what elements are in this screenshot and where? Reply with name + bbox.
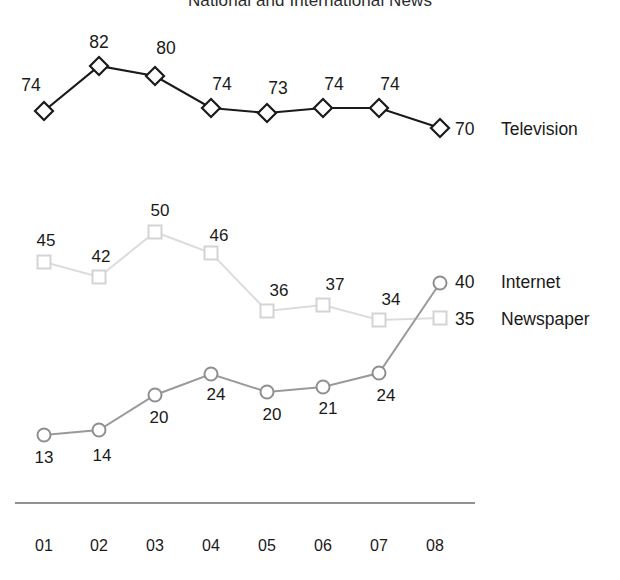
point-label-television-04: 74 [212, 74, 232, 94]
marker-television-05 [258, 104, 276, 122]
marker-newspaper-06 [317, 299, 330, 312]
series-point-labels-television: 74 82 80 74 73 74 74 [21, 32, 400, 98]
chart-container: National and International News 74 82 80… [0, 0, 620, 580]
series-television: 74 82 80 74 73 74 74 70 Television [21, 32, 578, 139]
point-label-internet-05: 20 [263, 405, 282, 424]
marker-newspaper-04 [205, 247, 218, 260]
x-tick-label-05: 05 [258, 537, 276, 554]
point-label-television-01: 74 [21, 75, 41, 95]
marker-internet-04 [205, 368, 218, 381]
marker-television-06 [314, 99, 332, 117]
point-label-newspaper-03: 50 [151, 201, 170, 220]
series-end-value-internet: 40 [455, 272, 475, 292]
point-label-television-03: 80 [156, 38, 176, 58]
marker-internet-08 [434, 277, 447, 290]
marker-television-08 [431, 119, 449, 137]
marker-television-07 [370, 99, 388, 117]
x-tick-label-01: 01 [35, 537, 53, 554]
point-label-internet-07: 24 [377, 386, 396, 405]
x-tick-label-02: 02 [90, 537, 108, 554]
point-label-internet-04: 24 [207, 385, 226, 404]
marker-internet-03 [149, 389, 162, 402]
series-internet: 13 14 20 24 20 21 24 40 Internet [35, 272, 561, 467]
point-label-internet-02: 14 [93, 446, 112, 465]
legend-label-television: Television [501, 119, 578, 139]
point-label-newspaper-04: 46 [210, 226, 229, 245]
marker-newspaper-05 [261, 305, 274, 318]
point-label-internet-03: 20 [150, 408, 169, 427]
series-end-value-newspaper: 35 [455, 309, 474, 329]
x-tick-label-07: 07 [370, 537, 388, 554]
x-axis-tick-labels: 01 02 03 04 05 06 07 08 [35, 537, 444, 554]
x-tick-label-03: 03 [146, 537, 164, 554]
marker-internet-05 [261, 386, 274, 399]
point-label-television-06: 74 [324, 74, 344, 94]
point-label-internet-06: 21 [319, 399, 338, 418]
point-label-newspaper-06: 37 [326, 275, 345, 294]
marker-internet-02 [93, 424, 106, 437]
chart-plot-area: 74 82 80 74 73 74 74 70 Television [0, 0, 620, 580]
point-label-television-05: 73 [268, 78, 287, 98]
point-label-newspaper-02: 42 [92, 247, 111, 266]
series-markers-television [35, 57, 449, 137]
marker-newspaper-08 [434, 312, 447, 325]
x-tick-label-08: 08 [426, 537, 444, 554]
point-label-newspaper-05: 36 [270, 281, 289, 300]
series-newspaper: 45 42 50 46 36 37 34 35 Newspaper [37, 201, 590, 329]
marker-newspaper-02 [93, 271, 106, 284]
marker-television-04 [202, 99, 220, 117]
point-label-television-07: 74 [380, 74, 400, 94]
point-label-television-02: 82 [89, 32, 108, 52]
series-point-labels-internet: 13 14 20 24 20 21 24 [35, 385, 396, 467]
legend-label-internet: Internet [501, 272, 560, 292]
marker-internet-07 [373, 367, 386, 380]
marker-television-03 [146, 67, 164, 85]
marker-newspaper-03 [149, 226, 162, 239]
marker-newspaper-01 [38, 256, 51, 269]
series-end-value-television: 70 [455, 119, 475, 139]
point-label-newspaper-01: 45 [37, 231, 56, 250]
point-label-newspaper-07: 34 [382, 290, 401, 309]
marker-internet-06 [317, 381, 330, 394]
series-markers-newspaper [38, 226, 447, 327]
marker-internet-01 [38, 429, 51, 442]
point-label-internet-01: 13 [35, 448, 54, 467]
x-tick-label-04: 04 [202, 537, 220, 554]
legend-label-newspaper: Newspaper [501, 309, 590, 329]
marker-newspaper-07 [373, 314, 386, 327]
x-tick-label-06: 06 [314, 537, 332, 554]
